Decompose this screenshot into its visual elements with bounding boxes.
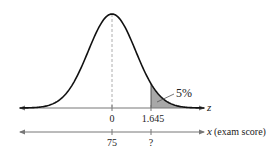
z-tick-label-critical: 1.645 xyxy=(142,113,165,124)
tail-percent-label: 5% xyxy=(176,86,192,100)
x-tick-label-unknown: ? xyxy=(149,137,154,148)
x-axis-label: x xyxy=(206,125,212,137)
z-axis-label: z xyxy=(206,101,212,113)
normal-distribution-figure: 5% z 0 1.645 x (exam score) 75 ? xyxy=(0,0,274,153)
z-tick-label-0: 0 xyxy=(110,113,115,124)
x-axis-description: (exam score) xyxy=(214,126,266,138)
x-tick-label-mean: 75 xyxy=(107,137,117,148)
